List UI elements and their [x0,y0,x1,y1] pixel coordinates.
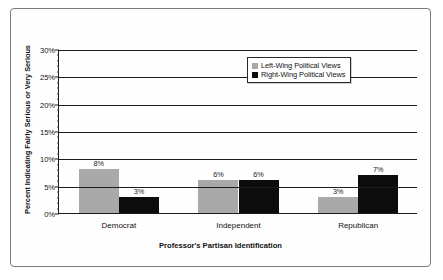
y-axis-minor-tick [57,82,60,83]
y-axis-minor-tick [57,110,60,111]
bar-value-label: 7% [373,165,383,174]
gridline [59,132,417,133]
y-axis-tick-label: 25% [40,73,55,82]
bar-value-label: 6% [213,170,223,179]
y-axis-minor-tick [57,142,60,143]
legend-label-right-wing: Right-Wing Political Views [261,70,345,79]
y-axis-minor-tick [57,203,60,204]
y-axis-tick-label: 15% [40,128,55,137]
x-axis-category-label: Democrat [101,221,136,230]
y-axis-tick-label: 5% [44,182,55,191]
y-axis-title: Percent Indicating Fairly Serious or Ver… [23,35,32,225]
bar [358,175,398,213]
bar [79,169,119,213]
y-axis-minor-tick [57,60,60,61]
bar-value-label: 6% [253,170,263,179]
bar-value-label: 3% [333,187,343,196]
bar-value-label: 3% [134,187,144,196]
y-axis-tick-label: 30% [40,46,55,55]
y-axis-minor-tick [57,93,60,94]
legend-item: Left-Wing Political Views [252,61,345,70]
chart-legend: Left-Wing Political Views Right-Wing Pol… [247,57,351,83]
y-axis-minor-tick [57,121,60,122]
chart-figure: Percent Indicating Fairly Serious or Ver… [10,8,431,267]
y-axis-minor-tick [57,181,60,182]
y-axis-minor-tick [57,197,60,198]
legend-swatch-left-wing [252,63,258,69]
y-axis-minor-tick [57,88,60,89]
y-axis-minor-tick [57,192,60,193]
y-axis-minor-tick [57,164,60,165]
bar-value-label: 8% [94,159,104,168]
x-axis-category-label: Republican [338,221,378,230]
bar [318,197,358,213]
y-axis-minor-tick [57,71,60,72]
y-axis-tick-label: 10% [40,155,55,164]
y-axis-minor-tick [57,153,60,154]
y-axis-tick-mark [55,214,59,215]
y-axis-tick-label: 20% [40,100,55,109]
bar [239,180,279,213]
gridline [59,159,417,160]
gridline [59,77,417,78]
gridline [59,105,417,106]
legend-label-left-wing: Left-Wing Political Views [261,61,341,70]
gridline [59,50,417,51]
y-axis-minor-tick [57,55,60,56]
y-axis-minor-tick [57,137,60,138]
y-axis-minor-tick [57,126,60,127]
x-axis-category-label: Independent [216,221,261,230]
y-axis-minor-tick [57,99,60,100]
y-axis-minor-tick [57,66,60,67]
legend-item: Right-Wing Political Views [252,70,345,79]
bar [198,180,238,213]
y-axis-minor-tick [57,148,60,149]
plot-area: 0%5%10%15%20%25%30% 8%3%6%6%3%7% Democra… [58,50,417,214]
y-axis-tick-label: 0% [44,210,55,219]
y-axis-minor-tick [57,115,60,116]
y-axis-minor-tick [57,208,60,209]
gridline [59,187,417,188]
x-axis-title: Professor's Partisan Identification [11,241,430,250]
legend-swatch-right-wing [252,72,258,78]
y-axis-minor-tick [57,175,60,176]
y-axis-minor-tick [57,170,60,171]
bar [119,197,159,213]
